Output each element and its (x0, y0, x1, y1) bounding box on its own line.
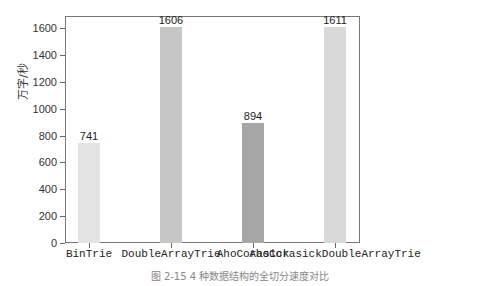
y-tick-label: 400 (39, 183, 57, 195)
bar-value-label: 1606 (146, 14, 196, 26)
y-tick: 1000 (0, 109, 65, 121)
y-tick-label: 1000 (33, 103, 57, 115)
bar (160, 27, 182, 243)
x-tick-label: AhoCorasickDoubleArrayTrie (249, 248, 421, 260)
y-tick-label: 600 (39, 156, 57, 168)
bar (324, 27, 346, 243)
x-tick-label: DoubleArrayTrie (121, 248, 220, 260)
y-tick-label: 1600 (33, 22, 57, 34)
y-tick-label: 200 (39, 210, 57, 222)
y-tick: 800 (0, 136, 65, 148)
y-tick: 600 (0, 162, 65, 174)
y-tick: 200 (0, 216, 65, 228)
bar (78, 143, 100, 243)
y-tick-label: 0 (51, 237, 57, 249)
y-tick-label: 800 (39, 130, 57, 142)
y-tick: 1400 (0, 55, 65, 67)
figure-caption: 图 2-15 4 种数据结构的全切分速度对比 (0, 268, 480, 283)
x-tick-label: BinTrie (66, 248, 112, 260)
y-tick: 1200 (0, 82, 65, 94)
bar-value-label: 1611 (310, 14, 360, 26)
y-tick-mark (60, 243, 65, 244)
y-tick: 400 (0, 189, 65, 201)
bar (242, 123, 264, 243)
y-tick-label: 1200 (33, 76, 57, 88)
y-tick: 0 (0, 243, 65, 255)
bar-value-label: 741 (64, 130, 114, 142)
y-tick-label: 1400 (33, 49, 57, 61)
bar-value-label: 894 (228, 110, 278, 122)
y-tick: 1600 (0, 28, 65, 40)
